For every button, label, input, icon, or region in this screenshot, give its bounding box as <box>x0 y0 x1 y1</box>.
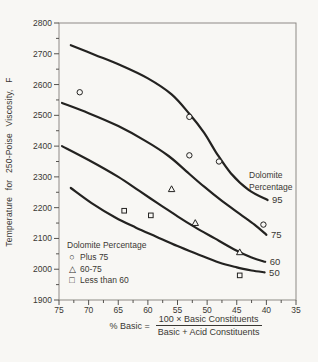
y-tick-label: 2500 <box>33 110 52 120</box>
curve-95 <box>71 45 268 200</box>
marker-circle <box>187 153 192 158</box>
y-tick-label: 2000 <box>33 264 52 274</box>
marker-triangle <box>168 186 174 192</box>
legend-item-plus75-label: Plus 75 <box>80 252 108 264</box>
marker-circle <box>77 90 82 95</box>
figure: 7570656055504540352800270026002500240023… <box>0 0 318 362</box>
marker-square <box>237 273 242 278</box>
marker-square <box>149 213 154 218</box>
formula-fraction: 100 × Basic Constituents Basic + Acid Co… <box>156 314 262 337</box>
y-tick-label: 2300 <box>33 172 52 182</box>
legend-title: Dolomite Percentage <box>67 240 146 252</box>
curve-family-label-line1: Dolomite <box>249 170 292 182</box>
triangle-marker-icon: △ <box>67 264 77 276</box>
marker-square <box>122 208 127 213</box>
formula-numerator: 100 × Basic Constituents <box>156 314 262 326</box>
y-tick-label: 1900 <box>33 295 52 305</box>
y-tick-label: 2800 <box>33 18 52 28</box>
curve-label-50: 50 <box>269 267 280 278</box>
legend-item-less60-label: Less than 60 <box>80 275 129 287</box>
formula-prefix: % Basic = <box>109 321 149 331</box>
square-marker-icon: □ <box>67 275 77 287</box>
y-tick-label: 2100 <box>33 233 52 243</box>
y-tick-label: 2700 <box>33 49 52 59</box>
curve-label-95: 95 <box>272 194 283 205</box>
curve-family-label-line2: Percentage <box>249 182 292 194</box>
y-tick-label: 2200 <box>33 203 52 213</box>
legend-item-60-75: △ 60-75 <box>67 264 146 276</box>
legend-item-less60: □ Less than 60 <box>67 275 146 287</box>
y-tick-label: 2600 <box>33 80 52 90</box>
y-tick-label: 2400 <box>33 141 52 151</box>
marker-circle <box>261 222 266 227</box>
legend: Dolomite Percentage ○ Plus 75 △ 60-75 □ … <box>67 240 146 287</box>
circle-marker-icon: ○ <box>67 252 77 264</box>
legend-item-60-75-label: 60-75 <box>80 264 102 276</box>
y-axis-title: Temperature for 250-Poise Viscosity, F <box>4 42 16 282</box>
curve-75 <box>62 103 266 235</box>
curve-family-label: Dolomite Percentage <box>249 170 292 193</box>
marker-circle <box>216 159 221 164</box>
curve-label-60: 60 <box>270 256 281 267</box>
marker-circle <box>187 114 192 119</box>
curve-label-75: 75 <box>271 229 282 240</box>
legend-item-plus75: ○ Plus 75 <box>67 252 146 264</box>
x-axis-title: % Basic = 100 × Basic Constituents Basic… <box>59 314 304 337</box>
marker-triangle <box>192 220 198 226</box>
formula-denominator: Basic + Acid Constituents <box>156 326 262 337</box>
